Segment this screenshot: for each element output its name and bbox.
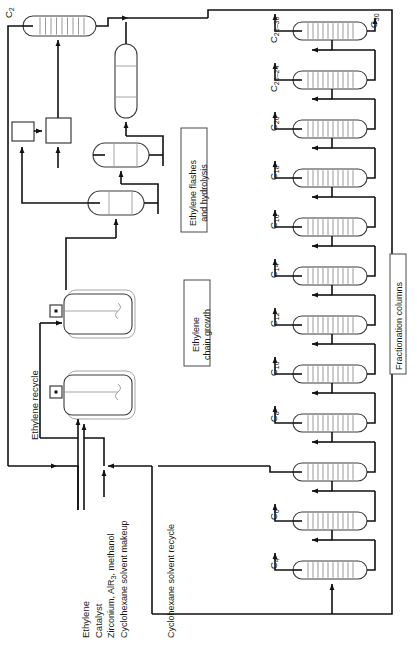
label-catalyst: Catalyst bbox=[93, 604, 104, 638]
col-c10 bbox=[275, 344, 375, 393]
col-c26-30 bbox=[275, 14, 375, 50]
sep-box-small bbox=[12, 122, 34, 141]
label-cyclohexane-recycle: Cyclohexane solvent recycle bbox=[166, 524, 177, 638]
hydrolysis-vessel bbox=[115, 44, 137, 118]
col-c4 bbox=[275, 540, 375, 614]
label-col-c14: C14 bbox=[268, 263, 281, 278]
label-col-c6: C6 bbox=[268, 509, 281, 520]
section-label-chain-growth-line2: chain growth bbox=[202, 309, 212, 360]
col-c20 bbox=[275, 99, 375, 148]
label-col-c18: C18 bbox=[268, 165, 281, 180]
label-col-c16: C16 bbox=[268, 214, 281, 229]
label-catalyst-detail: Zirconium, AlR3, methanol bbox=[106, 534, 118, 638]
sep-box-large bbox=[46, 118, 71, 143]
label-col-c20: C20 bbox=[268, 116, 281, 131]
col-c18 bbox=[275, 148, 375, 197]
process-flow-diagram: C2 C30 C26–30 C20–24 C20 C18 C16 C14 C12… bbox=[0, 0, 417, 645]
label-ethylene: Ethylene bbox=[80, 601, 91, 638]
col-solvent bbox=[232, 442, 375, 491]
reactor-2 bbox=[50, 371, 135, 419]
ethylene-recovery-column bbox=[23, 16, 96, 36]
label-col-c4: C4 bbox=[268, 558, 281, 569]
label-col-c12: C12 bbox=[268, 312, 281, 327]
fractionation-train bbox=[232, 14, 375, 614]
col-c16 bbox=[275, 197, 375, 246]
label-col-c10: C10 bbox=[268, 361, 281, 376]
section-label-flashes: Ethylene flashes and hydrolysis bbox=[188, 160, 211, 226]
label-col-c26-30: C26–30 bbox=[268, 17, 281, 43]
label-ethylene-recycle: Ethylene recycle bbox=[29, 370, 40, 440]
section-label-flashes-line1: Ethylene flashes bbox=[188, 160, 198, 226]
label-c2: C2 bbox=[3, 7, 16, 18]
col-c6 bbox=[275, 491, 375, 540]
section-label-flashes-line2: and hydrolysis bbox=[199, 164, 209, 222]
section-label-chain-growth: Ethylene chain growth bbox=[191, 309, 214, 360]
section-label-chain-growth-line1: Ethylene bbox=[191, 317, 201, 352]
col-c14 bbox=[275, 246, 375, 295]
label-c30: C30 bbox=[368, 13, 381, 28]
col-c8 bbox=[275, 393, 375, 442]
label-cyclohexane-makeup: Cyclohexane solvent makeup bbox=[119, 520, 130, 638]
reactor-1 bbox=[50, 290, 135, 338]
label-col-c8: C8 bbox=[268, 411, 281, 422]
label-col-c20-24: C20–24 bbox=[268, 66, 281, 92]
col-c20-24 bbox=[275, 50, 375, 99]
section-label-fractionation: Fractionation columns bbox=[394, 282, 405, 370]
col-c12 bbox=[275, 295, 375, 344]
